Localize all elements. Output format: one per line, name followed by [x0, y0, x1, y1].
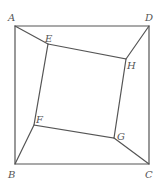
label-A: A: [7, 12, 15, 23]
geometry-diagram: A D B C E H F G: [0, 0, 167, 191]
label-G: G: [117, 131, 125, 142]
label-E: E: [44, 33, 53, 44]
label-C: C: [145, 169, 153, 180]
label-H: H: [126, 60, 136, 71]
outer-square-ABCD: [15, 26, 149, 164]
segment-BF: [15, 125, 34, 164]
label-D: D: [144, 12, 153, 23]
segment-DH: [126, 26, 149, 59]
label-B: B: [7, 169, 15, 180]
label-F: F: [35, 114, 44, 125]
segment-AE: [15, 26, 48, 44]
inner-quadrilateral-EHGF: [34, 44, 126, 138]
